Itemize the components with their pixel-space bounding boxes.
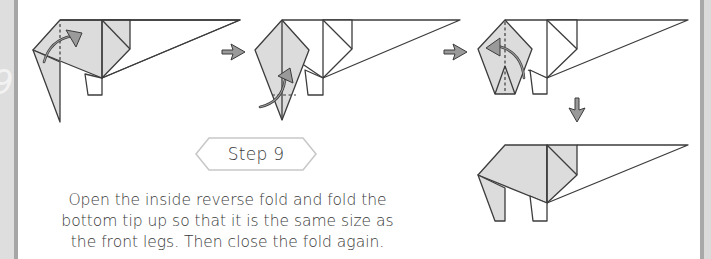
ear-flap: [547, 20, 577, 78]
down-arrow-icon: [569, 98, 585, 122]
right-arrow-icon: [222, 44, 245, 60]
diagram-3: [478, 20, 688, 94]
right-arrow-icon: [444, 44, 467, 60]
instruction-line: Open the inside reverse fold and fold th…: [55, 190, 400, 211]
ear-flap: [547, 145, 577, 203]
instruction-line: the front legs. Then close the fold agai…: [55, 232, 400, 253]
ear-flap: [323, 20, 352, 78]
diagram-1: [33, 20, 240, 122]
back-leg: [305, 70, 323, 95]
diagram-2: [255, 20, 460, 120]
trunk-tip: [33, 50, 60, 122]
instruction-line: bottom tip up so that it is the same siz…: [55, 211, 400, 232]
instruction-text: Open the inside reverse fold and fold th…: [55, 190, 400, 253]
back-leg: [530, 70, 547, 94]
step-badge: Step 9: [195, 137, 317, 171]
step-label: Step 9: [195, 137, 317, 171]
diagram-4: [478, 145, 688, 221]
